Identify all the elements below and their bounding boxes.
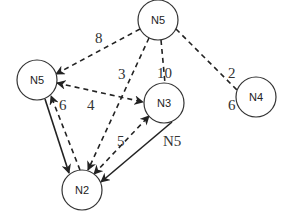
node-label: N2 <box>75 184 89 196</box>
edge-label-2: 2 <box>228 65 236 81</box>
node-n4: N4 <box>236 77 276 117</box>
node-label: N3 <box>157 97 171 109</box>
edge-label-10: 10 <box>157 65 172 81</box>
node-label: N5 <box>151 14 165 26</box>
network-diagram: N5 N5 N3 N4 N2 8 3 10 2 6 4 6 5 N5 <box>0 0 293 224</box>
node-label: N5 <box>30 74 44 86</box>
edge-n3-n2-solid <box>101 122 172 182</box>
edge-label-4: 4 <box>87 97 95 113</box>
edge-label-3: 3 <box>118 66 126 82</box>
edge-label-6: 6 <box>59 97 67 113</box>
node-n5-top: N5 <box>138 0 178 40</box>
edge-label-n5: N5 <box>163 133 181 149</box>
edges <box>45 29 237 182</box>
edge-label-8: 8 <box>95 30 103 46</box>
edge-n5left-n3 <box>57 83 143 102</box>
node-label: N4 <box>249 91 263 103</box>
edge-label-5: 5 <box>117 133 125 149</box>
edge-label-6-n4: 6 <box>228 97 236 113</box>
node-n2: N2 <box>62 170 102 210</box>
node-n3: N3 <box>144 83 184 123</box>
node-n5-left: N5 <box>17 60 57 100</box>
